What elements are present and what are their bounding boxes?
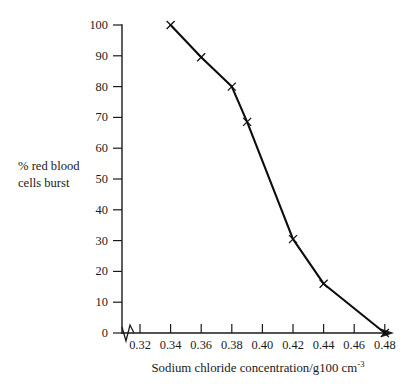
- x-axis-title-text: Sodium chloride concentration/g100 cm: [151, 361, 357, 375]
- y-tick-label-20: 20: [78, 265, 108, 277]
- y-axis-title-line-1: % red blood: [18, 158, 110, 175]
- y-axis-title-line-2: cells burst: [18, 175, 110, 192]
- y-tick-label-0: 0: [78, 327, 108, 339]
- y-tick-label-60: 60: [78, 142, 108, 154]
- data-point-marker: [167, 21, 175, 29]
- chart-figure: 100 90 80 70 60 50 40 30 20 10 0 0.32 0.…: [0, 0, 415, 392]
- axes-group: [122, 25, 394, 341]
- x-tick-label-0-48: 0.48: [359, 339, 411, 351]
- y-tick-label-70: 70: [78, 111, 108, 123]
- series-line-path: [171, 25, 385, 333]
- data-point-marker: [320, 280, 328, 288]
- y-tick-label-90: 90: [78, 50, 108, 62]
- y-axis-title: % red blood cells burst: [18, 158, 110, 191]
- y-tick-label-100: 100: [78, 19, 108, 31]
- y-tick-label-30: 30: [78, 235, 108, 247]
- data-series-red-blood-cells: [167, 21, 389, 337]
- y-tick-marks: [113, 25, 122, 333]
- data-point-marker: [197, 53, 205, 61]
- plot-canvas: [0, 0, 415, 392]
- x-tick-marks: [140, 324, 385, 333]
- y-tick-label-40: 40: [78, 204, 108, 216]
- y-tick-label-10: 10: [78, 296, 108, 308]
- x-axis-title-superscript: -3: [357, 359, 364, 369]
- y-tick-label-80: 80: [78, 81, 108, 93]
- data-point-marker: [228, 83, 236, 91]
- x-axis-title: Sodium chloride concentration/g100 cm-3: [108, 361, 408, 376]
